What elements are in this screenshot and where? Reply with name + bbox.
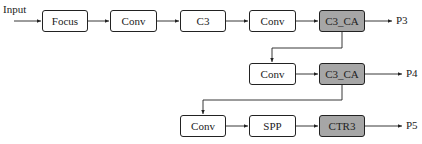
input-label: Input xyxy=(3,3,26,15)
conv-block-3: Conv xyxy=(249,63,296,85)
output-p4: P4 xyxy=(406,67,418,79)
conv-block-1: Conv xyxy=(110,10,157,32)
conv-block-2: Conv xyxy=(249,10,296,32)
output-p3: P3 xyxy=(396,14,408,26)
conv-block-4: Conv xyxy=(180,115,226,137)
ctr3-block: CTR3 xyxy=(319,115,365,137)
c3-ca-block-1: C3_CA xyxy=(319,10,365,32)
c3-block: C3 xyxy=(180,10,226,32)
output-p5: P5 xyxy=(406,119,418,131)
focus-block: Focus xyxy=(42,10,88,32)
spp-block: SPP xyxy=(249,115,296,137)
c3-ca-block-2: C3_CA xyxy=(319,63,365,85)
